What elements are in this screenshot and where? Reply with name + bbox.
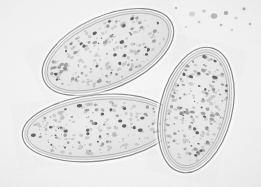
debris-speck — [231, 29, 233, 31]
debris-speck — [224, 11, 229, 15]
debris-speck — [234, 17, 237, 20]
debris-speck — [242, 8, 245, 11]
debris-speck — [185, 26, 188, 28]
debris-speck — [211, 13, 217, 19]
photomicrograph-canvas: Three oval parasite eggs with thick doub… — [0, 0, 261, 187]
debris-speck — [202, 9, 206, 12]
debris-speck — [220, 24, 223, 26]
debris-speck — [175, 7, 177, 9]
debris-speck — [198, 21, 201, 24]
microscopy-scene — [0, 0, 261, 187]
debris-speck — [189, 11, 195, 16]
debris-speck — [249, 23, 252, 25]
